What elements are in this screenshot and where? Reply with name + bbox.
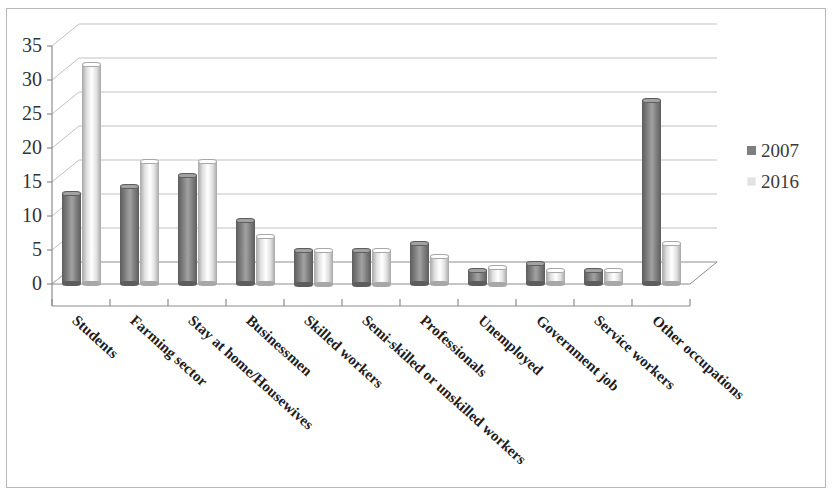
bar-top-ellipse [526,261,545,266]
bar-top-ellipse [488,265,507,270]
y-axis-tick-label: 15 [8,171,42,191]
legend-label: 2016 [761,172,799,191]
y-axis-tick-label: 35 [8,35,42,55]
bar-top-ellipse [236,218,255,223]
bar-top-ellipse [198,159,217,164]
bar-base-ellipse [642,281,661,286]
bar-body [372,250,391,284]
bar-2007-farming-sector [120,187,139,284]
bar-base-ellipse [662,281,681,286]
bar-base-ellipse [178,281,197,286]
bar-body [120,187,139,284]
gridline-depth-connector [52,24,79,46]
back-wall [79,24,717,262]
bar-2016-service-workers [604,270,623,284]
bar-body [198,162,217,284]
bar-base-ellipse [120,281,139,286]
bar-base-ellipse [488,282,507,287]
gridline-depth-connector [52,92,79,114]
bar-base-ellipse [546,281,565,286]
bar-top-ellipse [642,98,661,103]
bar-base-ellipse [294,282,313,287]
bar-body [294,250,313,284]
bar-top-ellipse [584,268,603,273]
bar-base-ellipse [410,281,429,286]
bar-top-ellipse [314,248,333,253]
bar-top-ellipse [662,241,681,246]
bar-body [314,250,333,284]
bar-base-ellipse [468,281,487,286]
bar-body [82,64,101,284]
bar-2007-semi-skilled-or-unskilled-workers [352,250,371,284]
legend-swatch-icon [747,177,756,186]
bar-2016-semi-skilled-or-unskilled-workers [372,250,391,284]
bar-2007-skilled-workers [294,250,313,284]
bar-base-ellipse [526,281,545,286]
legend-item-2016: 2016 [747,166,827,197]
bar-top-ellipse [604,268,623,273]
bar-body [140,162,159,284]
bar-top-ellipse [410,241,429,246]
bar-body [430,257,449,284]
bar-base-ellipse [430,281,449,286]
bar-2007-unemployed [468,270,487,284]
gridline-depth-connector [52,126,79,148]
bar-2007-stay-at-home-housewives [178,175,197,284]
y-axis-tick-label: 30 [8,69,42,89]
bar-2016-professionals [430,257,449,284]
bar-top-ellipse [352,248,371,253]
bar-base-ellipse [198,281,217,286]
plot-area: 05101520253035 StudentsFarming sectorSta… [7,9,827,489]
bar-2007-businessmen [236,221,255,284]
bar-top-ellipse [120,184,139,189]
bar-base-ellipse [584,281,603,286]
bar-top-ellipse [546,268,565,273]
bar-top-ellipse [468,268,487,273]
legend-swatch-icon [747,146,756,155]
bar-top-ellipse [294,248,313,253]
chart-legend: 20072016 [747,135,827,197]
bar-base-ellipse [82,281,101,286]
bar-body [256,236,275,284]
bar-body [410,243,429,284]
bar-base-ellipse [236,281,255,286]
bar-body [62,194,81,284]
bar-2016-farming-sector [140,162,159,284]
legend-item-2007: 2007 [747,135,827,166]
bar-base-ellipse [604,281,623,286]
chart-frame: 05101520253035 StudentsFarming sectorSta… [6,8,826,488]
bar-top-ellipse [178,173,197,178]
bar-top-ellipse [430,254,449,259]
y-axis-tick-label: 20 [8,137,42,157]
bar-2016-other-occupations [662,243,681,284]
bar-base-ellipse [62,281,81,286]
bar-base-ellipse [140,281,159,286]
bar-2016-government-job [546,270,565,284]
bar-2007-students [62,194,81,284]
bar-2007-professionals [410,243,429,284]
bar-body [642,100,661,284]
bar-top-ellipse [140,159,159,164]
bar-body [662,243,681,284]
bar-body [236,221,255,284]
bar-2007-service-workers [584,270,603,284]
bar-2016-businessmen [256,236,275,284]
bar-2007-government-job [526,264,545,284]
bar-2016-skilled-workers [314,250,333,284]
bar-base-ellipse [352,282,371,287]
bar-body [178,175,197,284]
y-axis-tick-label: 5 [8,239,42,259]
y-axis-tick-label: 25 [8,103,42,123]
bar-base-ellipse [372,282,391,287]
bar-top-ellipse [62,191,81,196]
gridline-depth-connector [52,160,79,182]
bar-top-ellipse [82,62,101,67]
y-axis-tick-label: 0 [8,273,42,293]
bar-2007-other-occupations [642,100,661,284]
bar-2016-stay-at-home-housewives [198,162,217,284]
bar-2016-unemployed [488,267,507,284]
legend-label: 2007 [761,141,799,160]
bar-body [352,250,371,284]
bar-base-ellipse [256,281,275,286]
bar-top-ellipse [372,248,391,253]
